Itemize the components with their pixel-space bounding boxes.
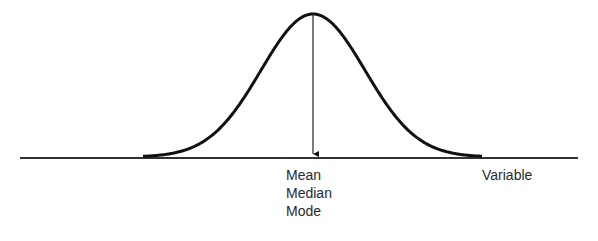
mode-label: Mode <box>286 202 332 220</box>
center-labels: Mean Median Mode <box>286 166 332 220</box>
axis-label-variable: Variable <box>482 166 532 184</box>
mean-label: Mean <box>286 166 332 184</box>
median-label: Median <box>286 184 332 202</box>
